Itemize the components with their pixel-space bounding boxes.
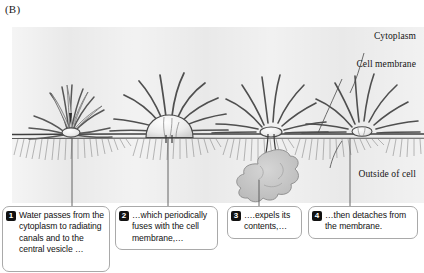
callout-3[interactable]: 3 ….expels its contents,… bbox=[227, 206, 302, 239]
callout-1-text: Water passes from the cytoplasm to radia… bbox=[19, 210, 105, 256]
panel-label: (B) bbox=[5, 3, 20, 15]
callout-3-badge: 3 bbox=[231, 211, 241, 221]
callout-4[interactable]: 4 …then detaches from the membrane. bbox=[308, 206, 418, 239]
annotation-outside-of-cell: Outside of cell bbox=[359, 169, 416, 179]
callout-3-text: ….expels its contents,… bbox=[244, 210, 297, 233]
callout-1[interactable]: 1 Water passes from the cytoplasm to rad… bbox=[2, 206, 110, 272]
callout-1-badge: 1 bbox=[6, 211, 16, 221]
callout-2[interactable]: 2 …which periodically fuses with the cel… bbox=[115, 206, 218, 250]
annotation-cell-membrane: Cell membrane bbox=[356, 59, 416, 69]
central-vesicle-stage-1 bbox=[62, 128, 80, 137]
callout-row: 1 Water passes from the cytoplasm to rad… bbox=[0, 203, 424, 273]
callout-4-text: …then detaches from the membrane. bbox=[325, 210, 413, 233]
annotation-cytoplasm: Cytoplasm bbox=[374, 31, 416, 41]
callout-2-text: …which periodically fuses with the cell … bbox=[132, 210, 213, 244]
callout-2-badge: 2 bbox=[119, 211, 129, 221]
collapsing-vesicle-stage-3 bbox=[260, 127, 282, 137]
illustration-panel: Cytoplasm Cell membrane Outside of cell bbox=[12, 27, 424, 203]
callout-4-badge: 4 bbox=[312, 211, 322, 221]
reformed-vesicle-stage-4 bbox=[352, 127, 372, 137]
